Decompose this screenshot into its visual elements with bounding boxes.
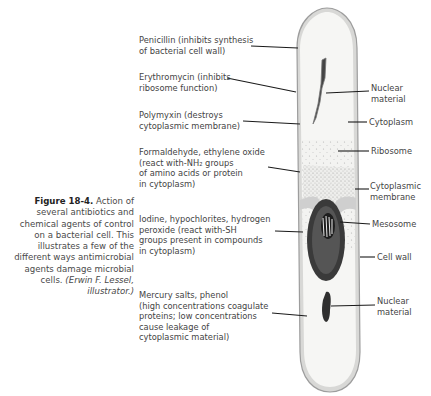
label-line: Nuclear bbox=[377, 296, 412, 307]
caption-line: illustrates a few of the bbox=[2, 241, 134, 252]
label-line: Erythromycin (inhibits bbox=[139, 72, 231, 83]
label-formaldehyde: Formaldehyde, ethylene oxide (react with… bbox=[139, 147, 265, 189]
label-line: peroxide (react with-SH bbox=[139, 225, 271, 236]
label-line: Formaldehyde, ethylene oxide bbox=[139, 147, 265, 158]
label-line: in cytoplasm) bbox=[139, 246, 271, 257]
label-line: Cytoplasmic bbox=[370, 181, 421, 192]
caption-line: agents damage microbial bbox=[2, 264, 134, 275]
caption-line: Figure 18-4. Action of bbox=[2, 196, 134, 207]
label-line: material bbox=[377, 307, 412, 318]
figure-caption: Figure 18-4. Action of several antibioti… bbox=[2, 196, 134, 298]
label-cytoplasmic-membrane: Cytoplasmic membrane bbox=[370, 181, 421, 202]
label-line: Mercury salts, phenol bbox=[139, 290, 268, 301]
caption-line: cells. (Erwin F. Lessel, bbox=[2, 275, 134, 286]
label-cytoplasm: Cytoplasm bbox=[369, 117, 413, 128]
caption-line: on a bacterial cell. This bbox=[2, 230, 134, 241]
label-line: Nuclear bbox=[371, 83, 406, 94]
label-line: (high concentrations coagulate bbox=[139, 301, 268, 312]
caption-line: chemical agents of control bbox=[2, 219, 134, 230]
label-line: Cell wall bbox=[377, 252, 412, 263]
leader-formaldehyde bbox=[268, 167, 300, 172]
label-line: membrane bbox=[370, 192, 421, 203]
label-line: Cytoplasm bbox=[369, 117, 413, 128]
label-line: Iodine, hypochlorites, hydrogen bbox=[139, 214, 271, 225]
label-line: proteins; low concentrations bbox=[139, 311, 268, 322]
illustrator-credit: illustrator.) bbox=[2, 286, 134, 297]
label-line: groups present in compounds bbox=[139, 235, 271, 246]
label-penicillin: Penicillin (inhibits synthesis of bacter… bbox=[139, 35, 253, 56]
caption-text: Action of bbox=[93, 196, 134, 206]
label-erythromycin: Erythromycin (inhibits ribosome function… bbox=[139, 72, 231, 93]
label-line: (react with-NH₂ groups bbox=[139, 158, 265, 169]
leader-polymyxin bbox=[243, 121, 300, 124]
illustrator-credit: (Erwin F. Lessel, bbox=[65, 275, 134, 285]
label-polymyxin: Polymyxin (destroys cytoplasmic membrane… bbox=[139, 110, 240, 131]
label-nuclear-material-upper: Nuclear material bbox=[371, 83, 406, 104]
label-mesosome: Mesosome bbox=[372, 219, 416, 230]
label-line: material bbox=[371, 94, 406, 105]
label-line: Penicillin (inhibits synthesis bbox=[139, 35, 253, 46]
leader-penicillin bbox=[251, 46, 298, 48]
caption-line: several antibiotics and bbox=[2, 207, 134, 218]
label-cell-wall: Cell wall bbox=[377, 252, 412, 263]
leader-erythromycin bbox=[227, 78, 296, 92]
label-line: cytoplasmic membrane) bbox=[139, 121, 240, 132]
label-line: Polymyxin (destroys bbox=[139, 110, 240, 121]
label-ribosome: Ribosome bbox=[371, 146, 412, 157]
label-line: of amino acids or protein bbox=[139, 168, 265, 179]
label-line: of bacterial cell wall) bbox=[139, 46, 253, 57]
label-line: Ribosome bbox=[371, 146, 412, 157]
label-nuclear-material-lower: Nuclear material bbox=[377, 296, 412, 317]
figure-label: Figure 18-4. bbox=[34, 196, 93, 206]
label-line: Mesosome bbox=[372, 219, 416, 230]
label-line: cause leakage of bbox=[139, 322, 268, 333]
label-line: cytoplasmic material) bbox=[139, 332, 268, 343]
label-line: ribosome function) bbox=[139, 83, 231, 94]
label-iodine: Iodine, hypochlorites, hydrogen peroxide… bbox=[139, 214, 271, 256]
caption-line: different ways antimicrobial bbox=[2, 252, 134, 263]
caption-text: cells. bbox=[41, 275, 66, 285]
label-line: in cytoplasm) bbox=[139, 179, 265, 190]
label-mercury: Mercury salts, phenol (high concentratio… bbox=[139, 290, 268, 343]
